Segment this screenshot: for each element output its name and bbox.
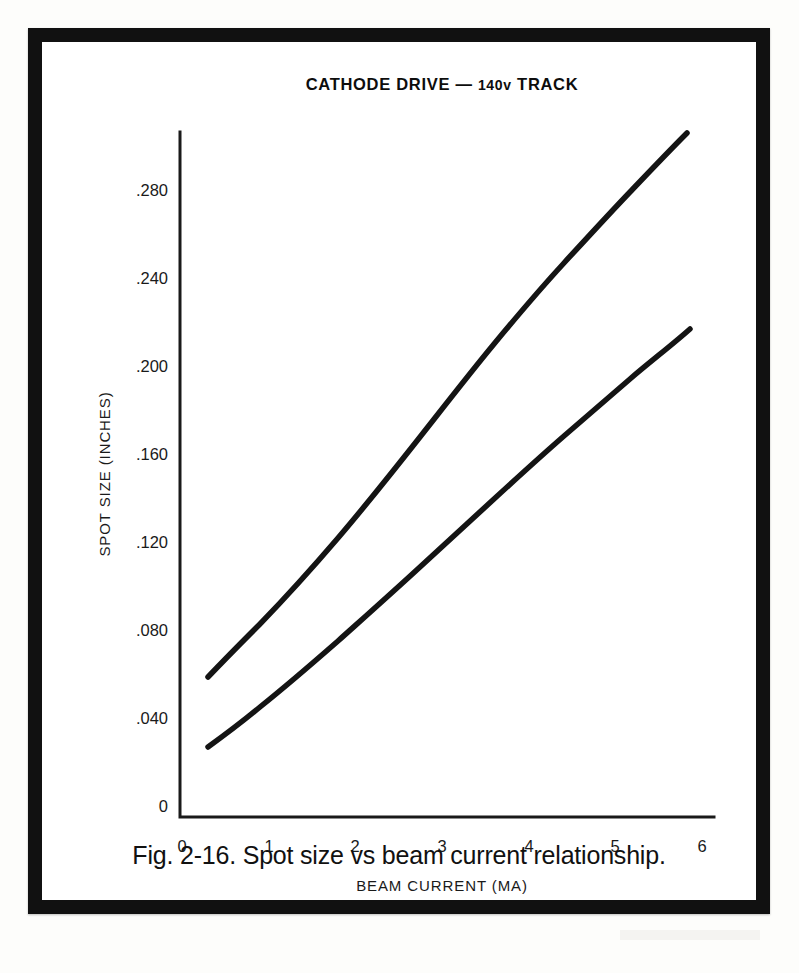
chart-title: CATHODE DRIVE — 140v TRACK xyxy=(306,75,579,93)
y-tick-labels: .280 .240 .200 .160 .120 .080 .040 0 xyxy=(136,181,168,815)
y-tick-label: .200 xyxy=(136,357,168,375)
chart-title-part-a: CATHODE DRIVE — xyxy=(306,75,478,93)
chart-title-voltage: 140v xyxy=(478,77,512,93)
figure-caption-container: Fig. 2-16. Spot size vs beam current rel… xyxy=(42,828,756,886)
y-tick-label: .280 xyxy=(136,181,168,199)
y-tick-label: .240 xyxy=(136,269,168,287)
figure-inner-panel: CATHODE DRIVE — 140v TRACK .280 .240 .20… xyxy=(42,42,756,900)
axis-lines xyxy=(180,132,714,817)
spot-size-vs-beam-current-chart: CATHODE DRIVE — 140v TRACK .280 .240 .20… xyxy=(42,42,756,900)
scanned-page: CATHODE DRIVE — 140v TRACK .280 .240 .20… xyxy=(0,0,799,973)
y-tick-label: .040 xyxy=(136,709,168,727)
figure-caption: Fig. 2-16. Spot size vs beam current rel… xyxy=(132,841,665,869)
y-tick-label: .120 xyxy=(136,533,168,551)
chart-area: CATHODE DRIVE — 140v TRACK .280 .240 .20… xyxy=(42,42,756,900)
figure-frame: CATHODE DRIVE — 140v TRACK .280 .240 .20… xyxy=(28,28,770,914)
y-tick-label: 0 xyxy=(159,797,168,815)
lower-curve xyxy=(208,329,690,747)
chart-title-part-b: TRACK xyxy=(512,75,579,93)
y-tick-label: .160 xyxy=(136,445,168,463)
y-tick-label: .080 xyxy=(136,621,168,639)
upper-curve xyxy=(208,133,687,677)
y-axis-title: SPOT SIZE (INCHES) xyxy=(96,391,113,556)
